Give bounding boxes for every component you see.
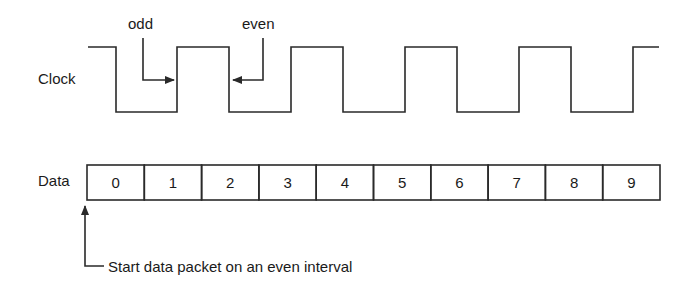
odd-arrow-icon: [143, 38, 174, 80]
start-note: Start data packet on an even interval: [108, 258, 352, 275]
data-cell-value: 8: [570, 174, 578, 191]
data-cell-value: 7: [513, 174, 521, 191]
data-cell-value: 1: [169, 174, 177, 191]
even-arrow-icon: [233, 38, 263, 80]
timing-diagram: Clock odd even Data 0123456789 Start dat…: [0, 0, 690, 294]
odd-label: odd: [128, 15, 153, 32]
data-cell-value: 3: [283, 174, 291, 191]
data-cell-value: 9: [627, 174, 635, 191]
data-cell-value: 6: [455, 174, 463, 191]
data-cell-value: 5: [398, 174, 406, 191]
data-cell-value: 4: [341, 174, 349, 191]
data-cell-value: 2: [226, 174, 234, 191]
data-label: Data: [38, 172, 70, 189]
data-cell-value: 0: [111, 174, 119, 191]
even-label: even: [242, 15, 275, 32]
data-packet: 0123456789: [87, 165, 660, 200]
clock-label: Clock: [38, 70, 76, 87]
start-arrow-icon: [85, 206, 104, 266]
